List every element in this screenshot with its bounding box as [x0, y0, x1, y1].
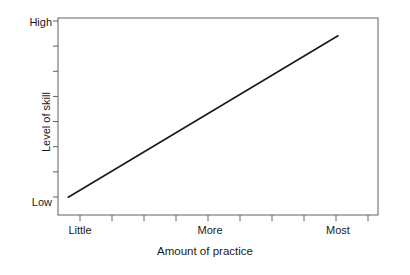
x-axis-title: Amount of practice: [0, 244, 410, 258]
y-tick-label-low: Low: [0, 196, 52, 209]
x-axis-ticks: [80, 215, 368, 221]
x-tick-label-most: Most: [310, 224, 366, 237]
y-axis-title: Level of skill: [40, 92, 53, 152]
y-axis-ticks: [53, 21, 58, 197]
x-tick-label-more: More: [182, 224, 238, 237]
y-tick-label-high: High: [0, 16, 52, 29]
chart-figure: High Low Little More Most Level of skill…: [0, 0, 410, 275]
plot-frame: [58, 18, 378, 215]
x-tick-label-little: Little: [52, 224, 108, 237]
